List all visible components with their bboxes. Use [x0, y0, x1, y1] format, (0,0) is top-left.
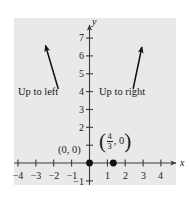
- x-tick-label-2: 2: [118, 171, 133, 181]
- x-tick-label--3: −3: [28, 171, 44, 181]
- y-tick-label--1: −1: [68, 177, 84, 187]
- y-tick-label-5: 5: [72, 69, 84, 79]
- y-tick-label-4: 4: [72, 87, 84, 97]
- fraction-numerator: 4: [107, 132, 113, 141]
- x-tick-label--4: −4: [10, 171, 26, 181]
- x-tick-label-3: 3: [136, 171, 151, 181]
- up-to-right-annotation: Up to right: [99, 87, 145, 98]
- root-point-label: ( 4 3 , 0 ): [99, 132, 131, 150]
- y-tick-label-6: 6: [72, 51, 84, 61]
- fraction-four-thirds: 4 3: [107, 132, 113, 150]
- point-origin: [86, 160, 93, 167]
- x-tick-label-1: 1: [100, 171, 115, 181]
- origin-point-label: (0, 0): [58, 145, 81, 156]
- graph-figure: −4 −3 −2 −1 1 2 3 4 7 6 5 4 3 2 −1 y x U…: [0, 0, 189, 199]
- open-paren: (: [99, 133, 106, 149]
- y-tick-label-7: 7: [72, 33, 84, 43]
- fraction-denominator: 3: [107, 141, 113, 151]
- up-to-left-arrow: [46, 46, 59, 90]
- y-axis-label: y: [92, 17, 96, 27]
- up-to-right-arrow: [133, 47, 142, 89]
- up-to-left-annotation: Up to left: [18, 87, 58, 98]
- y-tick-label-3: 3: [72, 105, 84, 115]
- point-root: [110, 160, 117, 167]
- x-tick-label--2: −2: [46, 171, 62, 181]
- root-label-rest: , 0: [114, 136, 125, 147]
- close-paren: ): [124, 133, 131, 149]
- x-tick-label-4: 4: [153, 171, 168, 181]
- y-tick-label-2: 2: [72, 123, 84, 133]
- x-axis-label: x: [180, 158, 184, 168]
